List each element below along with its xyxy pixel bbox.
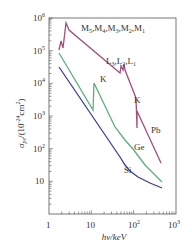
edge-label-m: M5,M4,M3,M2,M1 (81, 23, 145, 34)
svg-text:103: 103 (33, 110, 45, 121)
svg-text:103: 103 (168, 219, 180, 230)
si-curve (59, 67, 162, 188)
y-axis-ticks (49, 18, 53, 204)
svg-text:1: 1 (46, 220, 51, 230)
svg-text:105: 105 (33, 45, 45, 56)
svg-text:104: 104 (33, 77, 45, 88)
plot-frame (49, 18, 176, 214)
svg-text:10: 10 (86, 220, 96, 230)
svg-text:10: 10 (35, 176, 45, 186)
svg-text:102: 102 (128, 219, 140, 230)
edge-label-l: L3,L2,L1 (106, 56, 136, 67)
x-axis-ticks (62, 210, 174, 214)
edge-label-k-pb: K (134, 95, 141, 105)
svg-text:102: 102 (33, 143, 45, 154)
y-axis-title: σpe/(10-24cm2) (15, 98, 27, 148)
ge-curve (59, 53, 162, 182)
series-label-ge: Ge (134, 142, 145, 152)
y-tick-labels: 106 105 104 103 102 10 (33, 12, 45, 186)
x-tick-labels: 1 10 102 103 (46, 219, 180, 230)
svg-text:106: 106 (33, 12, 45, 23)
series-label-pb: Pb (151, 125, 161, 135)
edge-label-k-ge: K (100, 74, 107, 84)
series-label-si: Si (124, 165, 132, 175)
chart: 106 105 104 103 102 10 1 10 102 103 hν/k… (0, 0, 192, 249)
x-axis-title: hν/keV (102, 232, 128, 242)
